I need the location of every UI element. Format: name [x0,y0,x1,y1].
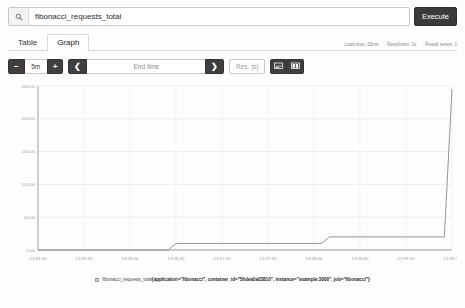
tab-graph[interactable]: Graph [47,34,89,51]
y-tick-label: 0.00 [26,248,35,253]
search-icon [9,8,29,25]
y-tick-label: 250.00 [22,84,36,89]
range-stepper: − 5m + [8,59,63,74]
x-tick-label: 13:35:30 [75,256,93,261]
range-decrease-button[interactable]: − [8,59,25,74]
legend-series-label[interactable]: fibonacci_requests_total{application="fi… [102,277,369,282]
y-tick-label: 50.00 [24,215,36,220]
legend-color-swatch [95,278,99,282]
end-time-input[interactable]: End time [87,59,205,74]
chart-type-toggle [270,59,304,74]
chart-series [38,89,452,250]
x-tick-label: 13:37:30 [259,256,277,261]
stacked-chart-icon[interactable] [287,59,304,74]
x-tick-label: 13:36:30 [167,256,185,261]
legend-metric-labels: {application="fibonacci", container_id="… [152,277,370,282]
x-tick-label: 13:39:00 [397,256,415,261]
graph-panel[interactable]: 0.0050.00100.00150.00200.00250.00 13:35:… [8,80,457,272]
end-time-prev-button[interactable]: ❮ [68,59,87,74]
line-chart-icon[interactable] [270,59,287,74]
end-time-picker: ❮ End time ❯ [68,59,224,74]
query-stats: Load time: 15ms Resolution: 1s Result se… [344,42,457,47]
query-input-container[interactable] [8,7,410,26]
chart-gridlines [38,86,452,250]
range-increase-button[interactable]: + [47,59,64,74]
x-tick-label: 13:36:00 [121,256,139,261]
query-input[interactable] [29,8,409,25]
x-tick-label: 13:35:00 [29,256,47,261]
y-tick-label: 200.00 [22,116,36,121]
graph-controls-toolbar: − 5m + ❮ End time ❯ Res. (s) [8,58,457,74]
legend-metric-name: fibonacci_requests_total [102,277,152,282]
chart-y-axis: 0.0050.00100.00150.00200.00250.00 [22,84,38,253]
x-tick-label: 13:37:00 [213,256,231,261]
y-tick-label: 150.00 [22,149,36,154]
execute-button[interactable]: Execute [414,7,457,26]
x-tick-label: 13:38:00 [305,256,323,261]
prometheus-expression-browser: Execute Table Graph Load time: 15ms Reso… [0,0,465,308]
query-row: Execute [8,7,457,26]
range-value[interactable]: 5m [25,59,47,74]
x-tick-label: 13:38:30 [351,256,369,261]
result-series-stat: Result series: 1 [425,42,457,47]
y-tick-label: 100.00 [22,182,36,187]
tab-table[interactable]: Table [8,34,47,51]
graph-svg[interactable]: 0.0050.00100.00150.00200.00250.00 13:35:… [8,80,457,272]
end-time-next-button[interactable]: ❯ [205,59,224,74]
graph-legend[interactable]: fibonacci_requests_total{application="fi… [8,275,457,282]
chart-x-axis: 13:35:0013:35:3013:36:0013:36:3013:37:00… [29,250,457,261]
result-tabs: Table Graph Load time: 15ms Resolution: … [8,34,457,51]
load-time-stat: Load time: 15ms [344,42,378,47]
resolution-stat: Resolution: 1s [387,42,416,47]
resolution-input[interactable]: Res. (s) [229,59,265,74]
x-tick-label: 13:39:30 [443,256,457,261]
series-line [38,89,452,250]
